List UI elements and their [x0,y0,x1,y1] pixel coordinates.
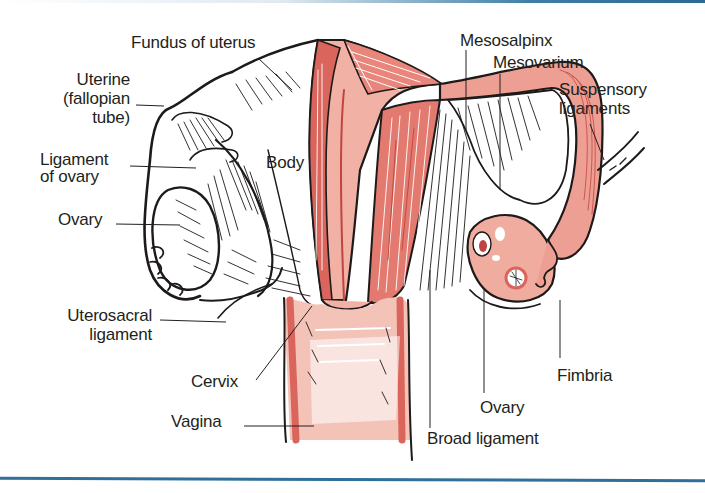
leader-uterosacral [160,320,226,322]
label-line: Suspensory [559,80,647,99]
leader-uterine-tube [136,105,164,106]
label-vagina: Vagina [171,412,221,431]
label-line: tube) [46,108,130,127]
label-mesovarium: Mesovarium [493,53,584,72]
label-fundus-of-uterus: Fundus of uterus [131,33,255,52]
label-line: of ovary [40,167,108,186]
label-fimbria: Fimbria [557,366,612,385]
label-mesosalpinx: Mesosalpinx [460,31,552,50]
label-ovary-left: Ovary [58,210,102,229]
label-broad-ligament: Broad ligament [427,429,539,448]
label-line: Uterosacral [44,306,152,325]
label-suspensory-ligaments: Suspensory ligaments [559,80,647,118]
label-line: ligaments [559,99,647,118]
label-uterosacral-ligament: Uterosacral ligament [44,306,152,344]
label-line: ligament [44,325,152,344]
left-adnexa-drawing [145,40,324,318]
leader-fundus [258,58,292,90]
vagina-drawing [284,297,412,460]
leader-ligament-of-ovary [130,166,196,168]
label-body: Body [266,153,304,172]
label-ovary-right: Ovary [480,398,524,417]
label-cervix: Cervix [191,372,238,391]
label-uterine-fallopian-tube: Uterine (fallopian tube) [46,70,130,127]
label-line: Uterine [46,70,130,89]
label-ligament-of-ovary: Ligament of ovary [40,150,108,186]
label-line: (fallopian [46,89,130,108]
